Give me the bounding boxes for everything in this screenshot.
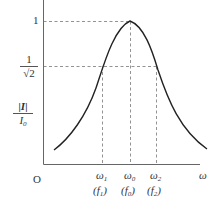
omega-symbol: ω [150,169,158,181]
x-axis-label: ω [199,170,207,181]
x-tick-omega1: ω1 [96,170,107,183]
paren-close: ) [157,184,161,196]
y-tick-1: 1 [33,15,39,26]
x-tick-omega0: ω0 [124,170,135,183]
x-tick-f0: (f0) [121,185,135,198]
omega-symbol: ω [124,169,132,181]
y-tick-inv-sqrt2: 1 √2 [20,54,38,79]
inv-sqrt2-denominator: √2 [20,67,38,79]
freq-symbol: (f [121,184,128,196]
x-tick-f2: (f2) [147,185,161,198]
freq-symbol: (f [93,184,100,196]
x-tick-omega2: ω2 [150,170,161,183]
paren-close: ) [103,184,107,196]
omega-subscript: 0 [132,175,136,183]
freq-symbol: (f [147,184,154,196]
paren-close: ) [131,184,135,196]
y-axis-label-denominator: I0 [13,114,33,128]
origin-label: O [33,174,41,185]
x-tick-f1: (f1) [93,185,107,198]
inv-sqrt2-numerator: 1 [20,54,38,66]
omega-subscript: 2 [158,175,162,183]
y-axis-label-numerator: |I| [13,101,33,113]
omega-subscript: 1 [104,175,108,183]
omega-symbol: ω [96,169,104,181]
denominator-subscript: 0 [23,120,27,128]
y-axis-label: |I| I0 [13,101,33,128]
